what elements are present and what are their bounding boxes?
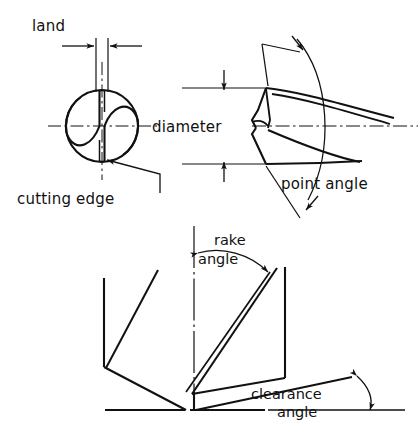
rake-angle-label-line2: angle bbox=[198, 251, 238, 267]
chisel-edge-line bbox=[266, 89, 270, 128]
side-view: diameter bbox=[152, 36, 418, 218]
clearance-angle-label-line1: clearance bbox=[251, 386, 322, 402]
point-angle-arrow-top bbox=[292, 36, 303, 50]
cutting-edge-label: cutting edge bbox=[17, 190, 114, 208]
lower-flank-line bbox=[266, 161, 362, 164]
left-lip-rake-face bbox=[106, 270, 158, 368]
point-angle-extension-upper bbox=[262, 44, 300, 52]
right-lip-rake-face-back bbox=[186, 272, 270, 392]
land-label: land bbox=[32, 17, 65, 35]
left-lip-clearance-face bbox=[104, 367, 186, 410]
diameter-label: diameter bbox=[152, 118, 222, 136]
upper-cutting-lip bbox=[266, 88, 394, 118]
right-lip-rake-face-front bbox=[192, 268, 277, 394]
clearance-angle-dimension: clearance angle bbox=[251, 376, 371, 420]
diameter-dimension: diameter bbox=[152, 70, 266, 182]
section-view: rake angle clearance angle bbox=[104, 226, 405, 420]
upper-flute-line bbox=[272, 94, 390, 124]
point-cone-lower-left-flank bbox=[252, 128, 266, 164]
end-view: land cutting edge bbox=[17, 17, 160, 208]
flute-curve-upper-right bbox=[105, 107, 139, 155]
clearance-angle-label-line2: angle bbox=[277, 404, 317, 420]
clearance-angle-arc bbox=[357, 376, 371, 410]
drawing-canvas: land cutting edge bbox=[0, 0, 420, 439]
cutting-edge-leader-line bbox=[107, 160, 160, 193]
rake-angle-dimension: rake angle bbox=[198, 232, 268, 272]
rake-angle-label-line1: rake bbox=[214, 232, 246, 248]
lower-cutting-lip bbox=[268, 130, 360, 162]
point-angle-label: point angle bbox=[281, 175, 368, 193]
point-angle-dimension: point angle bbox=[262, 36, 368, 218]
point-angle-leg-upper bbox=[262, 44, 268, 86]
point-angle-arrow-bottom bbox=[306, 196, 318, 210]
flute-curve-lower-left bbox=[66, 97, 100, 145]
technical-drawing: land cutting edge bbox=[0, 0, 420, 439]
cutting-edge-leader: cutting edge bbox=[17, 160, 160, 208]
land-dimension: land bbox=[32, 17, 142, 92]
